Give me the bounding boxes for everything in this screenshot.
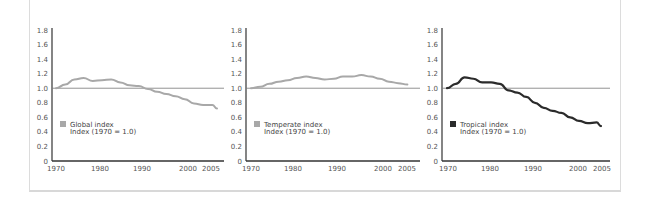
y-tick-label: 1.2 [37,70,48,78]
y-tick-label: 1.4 [37,56,49,64]
y-tick-label: 1.8 [231,27,242,35]
x-tick-label: 1980 [284,165,302,173]
y-tick-label: 0 [434,158,438,166]
y-tick-label: 0.8 [37,99,48,107]
y-tick-label: 1.0 [231,85,242,93]
y-tick-label: 0.6 [37,114,49,122]
y-tick-label: 0.2 [37,143,48,151]
y-tick-label: 1.8 [427,27,438,35]
y-tick-label: 1.6 [37,41,49,49]
x-tick-label: 2005 [593,165,611,173]
y-tick-label: 1.4 [231,56,243,64]
chart-temperate-index: 00.20.40.60.81.01.21.41.61.8197019801990… [231,27,420,174]
x-tick-label: 2005 [202,165,220,173]
y-tick-label: 0.4 [231,128,243,136]
legend-swatch [60,121,66,127]
y-tick-label: 1.4 [427,56,439,64]
y-tick-label: 1.6 [231,41,243,49]
legend-sublabel: Index (1970 = 1.0) [70,128,136,136]
y-tick-label: 1.0 [427,85,438,93]
x-tick-label: 2005 [398,165,416,173]
x-tick-label: 1980 [481,165,499,173]
y-tick-label: 0.8 [427,99,438,107]
x-tick-label: 2000 [374,165,392,173]
legend-swatch [254,121,260,127]
y-tick-label: 1.2 [231,70,242,78]
y-tick-label: 0.2 [427,143,438,151]
x-tick-label: 1970 [242,165,260,173]
x-tick-label: 1970 [47,165,65,173]
y-tick-label: 0.8 [231,99,242,107]
data-line [251,75,407,88]
x-tick-label: 1990 [328,165,346,173]
y-tick-label: 0.2 [231,143,242,151]
y-tick-label: 1.6 [427,41,439,49]
data-line [56,78,217,109]
x-tick-label: 1990 [524,165,542,173]
x-tick-label: 2000 [179,165,197,173]
y-tick-label: 1.2 [427,70,438,78]
x-tick-label: 1970 [439,165,457,173]
y-tick-label: 0.4 [427,128,439,136]
x-tick-label: 1980 [91,165,109,173]
legend-swatch [450,121,456,127]
y-tick-label: 0.6 [427,114,439,122]
charts-canvas: 00.20.40.60.81.01.21.41.61.8197019801990… [0,0,649,197]
legend-sublabel: Index (1970 = 1.0) [460,128,526,136]
chart-tropical-index: 00.20.40.60.81.01.21.41.61.8197019801990… [427,27,611,174]
data-line [447,77,601,126]
y-tick-label: 1.0 [37,85,48,93]
y-tick-label: 0.4 [37,128,49,136]
y-tick-label: 1.8 [37,27,48,35]
x-tick-label: 2000 [569,165,587,173]
chart-global-index: 00.20.40.60.81.01.21.41.61.8197019801990… [37,27,224,174]
x-tick-label: 1990 [133,165,151,173]
y-tick-label: 0.6 [231,114,243,122]
legend-sublabel: Index (1970 = 1.0) [264,128,330,136]
